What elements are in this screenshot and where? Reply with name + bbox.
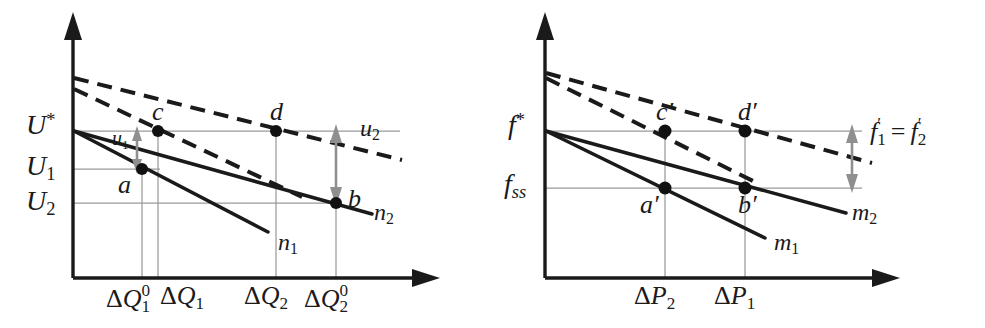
right-ylabel-fstar: f* xyxy=(508,111,525,139)
left-xlabel-dq2: ΔQ2 xyxy=(244,283,288,312)
left-xlabel-dq1: ΔQ1 xyxy=(160,283,204,312)
right-point-label-b-prime: b′ xyxy=(738,192,757,218)
point-c-prime xyxy=(659,125,672,138)
curve-u1-dashed xyxy=(74,89,302,197)
left-ylabel-ustar: U* xyxy=(26,111,55,139)
right-point-label-a-prime: a′ xyxy=(640,192,659,218)
economics-figure: U* U1 U2 ΔQ01 ΔQ1 ΔQ2 ΔQ02 n1 n2 u1 u2 a… xyxy=(0,0,985,328)
left-curve-label-u2: u2 xyxy=(360,116,380,143)
right-curve-label-m1: m1 xyxy=(774,230,799,257)
left-y-axis-arrowhead xyxy=(64,12,82,40)
right-y-axis-arrowhead xyxy=(536,12,554,40)
left-point-label-c: c xyxy=(152,99,164,125)
point-a-prime xyxy=(659,182,672,195)
gap-arrow-u2 xyxy=(330,124,342,206)
point-d xyxy=(270,125,282,137)
left-xlabel-dq1-zero: ΔQ01 xyxy=(106,283,150,315)
left-ylabel-u1: U1 xyxy=(26,152,55,184)
right-xlabel-dp2: ΔP2 xyxy=(634,283,675,312)
point-c xyxy=(152,125,164,137)
curve-f2-dashed xyxy=(546,73,872,163)
left-point-label-d: d xyxy=(270,99,283,125)
point-b xyxy=(330,197,342,209)
right-xlabel-dp1: ΔP1 xyxy=(714,283,755,312)
left-curve-label-u1: u1 xyxy=(112,128,129,151)
curve-n1-solid xyxy=(74,131,268,232)
left-point-label-a: a xyxy=(118,172,131,198)
left-ylabel-u2: U2 xyxy=(26,187,55,219)
right-ylabel-fss: fss xyxy=(504,170,526,202)
right-curve-label-fprime-equality: f′1=f′2 xyxy=(870,116,926,148)
right-x-axis-arrowhead xyxy=(872,269,900,287)
left-point-label-b: b xyxy=(348,186,361,212)
right-point-label-c-prime: c′ xyxy=(656,99,673,125)
curve-m1-solid xyxy=(546,131,765,238)
left-xlabel-dq2-zero: ΔQ02 xyxy=(304,283,348,315)
left-curve-label-n2: n2 xyxy=(374,200,394,227)
right-panel xyxy=(536,12,900,287)
right-point-label-d-prime: d′ xyxy=(738,99,757,125)
figure-canvas xyxy=(0,0,985,328)
left-curve-label-n1: n1 xyxy=(278,230,298,257)
right-curve-label-m2: m2 xyxy=(852,200,877,227)
left-x-axis-arrowhead xyxy=(412,269,440,287)
point-a xyxy=(136,163,148,175)
point-d-prime xyxy=(739,125,752,138)
